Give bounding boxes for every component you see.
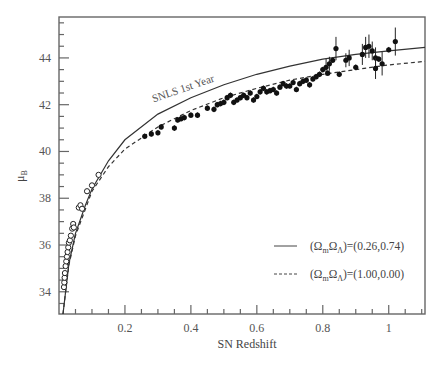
y-tick-label: 44 <box>39 51 51 65</box>
svg-text:(ΩmΩΛ)=(0.26,0.74): (ΩmΩΛ)=(0.26,0.74) <box>310 240 404 255</box>
snls-sn-point <box>366 44 371 49</box>
snls-sn-point <box>304 78 309 83</box>
x-axis-title: SN Redshift <box>217 337 277 351</box>
snls-sn-point <box>188 113 193 118</box>
snls-sn-point <box>370 48 375 53</box>
snls-sn-point <box>376 56 381 61</box>
snls-sn-point <box>347 55 352 60</box>
snls-sn-point <box>330 58 335 63</box>
snls-sn-point <box>205 106 210 111</box>
low-z-sn-point <box>84 189 89 194</box>
snls-sn-point <box>307 82 312 87</box>
snls-sn-point <box>274 90 279 95</box>
x-tick-label: 0.4 <box>183 321 198 335</box>
low-z-sn-point <box>68 233 73 238</box>
y-tick-label: 38 <box>39 191 51 205</box>
snls-sn-point <box>228 93 233 98</box>
low-z-sn-point <box>79 206 84 211</box>
x-tick-label: 1 <box>386 321 392 335</box>
snls-annotation: SNLS 1st Year <box>150 72 216 105</box>
y-tick-label: 36 <box>39 238 51 252</box>
low-z-sn-point <box>89 183 94 188</box>
snls-sn-point <box>353 65 358 70</box>
y-tick-label: 34 <box>39 285 51 299</box>
snls-sn-point <box>373 66 378 71</box>
y-tick-label: 40 <box>39 144 51 158</box>
snls-sn-point <box>386 47 391 52</box>
snls-sn-point <box>333 46 338 51</box>
snls-sn-point <box>195 113 200 118</box>
y-tick-label: 42 <box>39 98 51 112</box>
y-axis-title: μB <box>13 170 29 182</box>
snls-sn-point <box>254 94 259 99</box>
snls-sn-point <box>172 125 177 130</box>
snls-sn-point <box>380 61 385 66</box>
snls-sn-point <box>182 115 187 120</box>
legend-item-dashed: (ΩmΩΛ)=(1.00,0.00) <box>274 268 404 283</box>
snls-sn-point <box>317 72 322 77</box>
hubble-diagram-chart: 343638404244 0.20.40.60.81 SNLS 1st Year… <box>0 0 440 367</box>
x-tick-label: 0.6 <box>249 321 264 335</box>
snls-sn-point <box>159 124 164 129</box>
low-z-sn-point <box>96 172 101 177</box>
snls-sn-point <box>244 95 249 100</box>
snls-sn-point <box>248 90 253 95</box>
snls-sn-point <box>211 107 216 112</box>
snls-sn-point <box>221 100 226 105</box>
x-tick-label: 0.8 <box>315 321 330 335</box>
snls-sn-point <box>294 87 299 92</box>
x-tick-label: 0.2 <box>117 321 132 335</box>
svg-text:μB: μB <box>13 170 29 182</box>
low-z-sn-point <box>71 225 76 230</box>
x-axis-ticks: 0.20.40.60.81 <box>75 305 421 335</box>
snls-sn-point <box>291 80 296 85</box>
legend: (ΩmΩΛ)=(0.26,0.74) (ΩmΩΛ)=(1.00,0.00) <box>274 240 404 283</box>
snls-sn-point <box>325 71 330 76</box>
low-z-sn-point <box>62 270 67 275</box>
snls-sn-point <box>155 130 160 135</box>
snls-sn-point <box>142 134 147 139</box>
snls-sn-point <box>337 72 342 77</box>
legend-item-solid: (ΩmΩΛ)=(0.26,0.74) <box>274 240 404 255</box>
y-axis-title-sub: B <box>20 170 29 175</box>
snls-sn-point <box>393 39 398 44</box>
snls-sn-point <box>149 131 154 136</box>
svg-text:(ΩmΩΛ)=(1.00,0.00): (ΩmΩΛ)=(1.00,0.00) <box>310 268 404 283</box>
snls-sn-point <box>360 52 365 57</box>
